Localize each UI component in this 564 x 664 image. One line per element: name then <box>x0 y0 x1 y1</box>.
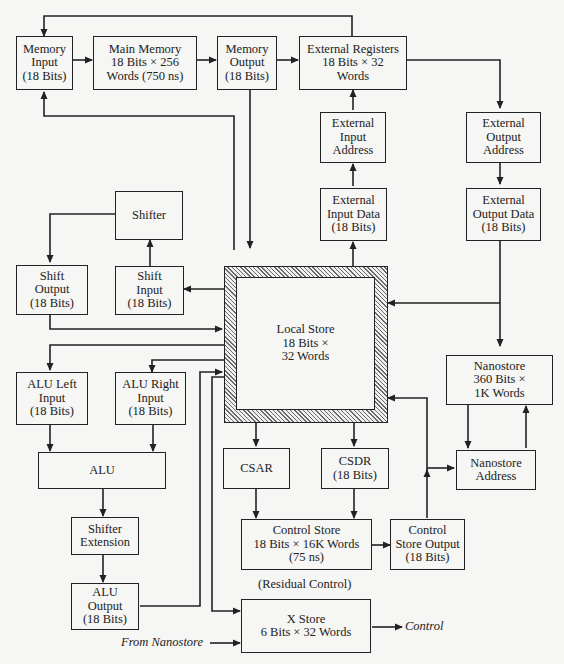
external-output-data-box: External Output Data (18 Bits) <box>466 188 541 241</box>
alu-output-box: ALU Output (18 Bits) <box>71 583 139 630</box>
local-store-box: Local Store 18 Bits × 32 Words <box>236 277 375 410</box>
alu-box: ALU <box>38 452 166 489</box>
csar-box: CSAR <box>223 448 290 489</box>
main-memory-box: Main Memory 18 Bits × 256 Words (750 ns) <box>93 36 197 90</box>
alu-left-input-box: ALU Left Input (18 Bits) <box>16 372 88 425</box>
processor-block-diagram: Memory Input (18 Bits) Main Memory 18 Bi… <box>0 0 564 664</box>
alu-right-input-box: ALU Right Input (18 Bits) <box>115 372 186 425</box>
external-registers-box: External Registers 18 Bits × 32 Words <box>299 36 407 90</box>
csdr-box: CSDR (18 Bits) <box>321 448 389 489</box>
residual-control-label: (Residual Control) <box>258 577 351 592</box>
shift-input-box: Shift Input (18 Bits) <box>115 266 184 315</box>
memory-input-box: Memory Input (18 Bits) <box>16 36 73 90</box>
x-store-box: X Store 6 Bits × 32 Words <box>241 599 371 653</box>
from-nanostore-label: From Nanostore <box>121 635 203 650</box>
nanostore-box: Nanostore 360 Bits × 1K Words <box>446 355 553 405</box>
shift-output-box: Shift Output (18 Bits) <box>16 265 88 315</box>
memory-output-box: Memory Output (18 Bits) <box>217 36 277 90</box>
nanostore-address-box: Nanostore Address <box>456 450 536 490</box>
shifter-extension-box: Shifter Extension <box>71 517 139 555</box>
control-store-box: Control Store 18 Bits × 16K Words (75 ns… <box>241 519 372 570</box>
external-input-data-box: External Input Data (18 Bits) <box>320 188 387 241</box>
control-store-output-box: Control Store Output (18 Bits) <box>390 519 465 570</box>
external-input-address-box: External Input Address <box>320 112 386 163</box>
control-output-label: Control <box>405 619 443 634</box>
shifter-box: Shifter <box>115 191 183 240</box>
external-output-address-box: External Output Address <box>466 112 541 163</box>
